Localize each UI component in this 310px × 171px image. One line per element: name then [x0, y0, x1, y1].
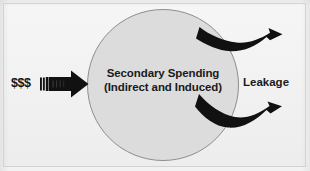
- diagram-canvas: $$$ Secondary Spending (Indirect and Ind…: [0, 0, 310, 171]
- circle-label-line2: (Indirect and Induced): [88, 80, 238, 94]
- leakage-arrow-bottom: [195, 94, 282, 128]
- circle-label: Secondary Spending (Indirect and Induced…: [88, 66, 238, 94]
- money-inflow-arrow: [40, 71, 89, 98]
- circle-label-line1: Secondary Spending: [107, 67, 220, 79]
- leakage-label: Leakage: [243, 76, 289, 88]
- money-inflow-label: $$$: [11, 76, 30, 90]
- leakage-arrow-top: [196, 27, 283, 51]
